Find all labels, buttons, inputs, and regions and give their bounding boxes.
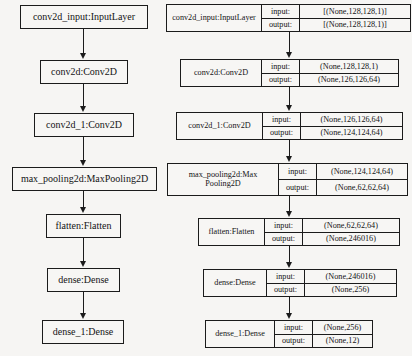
shaped-node-input-row: input: [(None,128,128,1)] xyxy=(262,5,410,19)
input-label: input: xyxy=(275,321,313,334)
output-shape-value: (None,124,124,64) xyxy=(301,127,402,140)
shaped-node-name: flatten:Flatten xyxy=(199,219,264,245)
input-label: input: xyxy=(263,113,301,126)
input-shape-value: (None,124,124,64) xyxy=(317,164,407,179)
output-label: output: xyxy=(275,335,313,348)
output-shape-value: [(None,128,128,1)] xyxy=(300,19,410,32)
shaped-node-shape-table: input: (None,256) output: (None,12) xyxy=(274,321,372,347)
input-shape-value: (None,62,62,64) xyxy=(303,219,399,232)
shaped-node-label: conv2d:Conv2D xyxy=(194,69,248,78)
shaped-edge-dense-to-dense-1 xyxy=(289,297,290,314)
shaped-node-conv2d: conv2d:Conv2D input: (None,128,128,1) ou… xyxy=(180,59,399,87)
shaped-node-label: dense_1:Dense xyxy=(215,330,265,339)
shaped-node-label: conv2d_1:Conv2D xyxy=(188,122,250,131)
shaped-node-shape-table: input: (None,128,128,1) output: (None,12… xyxy=(261,60,398,86)
output-label: output: xyxy=(265,233,303,246)
output-label: output: xyxy=(263,127,301,140)
shaped-edge-conv2d-1-to-max-pooling2d xyxy=(289,140,290,157)
shaped-edge-conv2d-input-to-conv2d xyxy=(289,32,290,53)
input-label: input: xyxy=(265,219,303,232)
shaped-node-input-row: input: (None,124,124,64) xyxy=(279,164,407,180)
output-shape-value: (None,256) xyxy=(305,284,396,297)
input-shape-value: (None,126,126,64) xyxy=(301,113,402,126)
output-label: output: xyxy=(262,74,300,87)
shaped-edge-arrowhead xyxy=(286,262,292,268)
output-label: output: xyxy=(279,180,317,195)
shaped-node-dense: dense:Dense input: (None,246016) output:… xyxy=(203,269,397,297)
shaped-edge-max-pooling2d-to-flatten xyxy=(289,196,290,212)
shaped-node-name: dense:Dense xyxy=(204,270,266,296)
output-shape-value: (None,246016) xyxy=(303,233,399,246)
shaped-node-name: conv2d_1:Conv2D xyxy=(177,113,262,139)
output-label: output: xyxy=(262,19,300,32)
shaped-node-max-pooling2d: max_pooling2d:Max Pooling2D input: (None… xyxy=(167,163,408,196)
shaped-node-output-row: output: (None,256) xyxy=(267,284,396,297)
output-shape-value: (None,126,126,64) xyxy=(300,74,398,87)
shaped-node-output-row: output: (None,124,124,64) xyxy=(263,127,402,140)
shaped-edge-arrowhead xyxy=(286,156,292,162)
shaped-edge-conv2d-to-conv2d-1 xyxy=(289,87,290,106)
input-label: input: xyxy=(267,270,305,283)
shaped-edge-arrowhead xyxy=(286,105,292,111)
output-shape-value: (None,12) xyxy=(313,335,372,348)
shaped-node-shape-table: input: (None,126,126,64) output: (None,1… xyxy=(262,113,402,139)
shaped-node-name: conv2d:Conv2D xyxy=(181,60,261,86)
shaped-node-shape-table: input: (None,124,124,64) output: (None,6… xyxy=(278,164,407,195)
input-shape-value: (None,246016) xyxy=(305,270,396,283)
shaped-node-output-row: output: (None,12) xyxy=(275,335,372,348)
shaped-edge-flatten-to-dense xyxy=(289,246,290,263)
layer-graph-with-shapes: conv2d_input:InputLayer input: [(None,12… xyxy=(0,0,412,356)
shaped-node-input-row: input: (None,126,126,64) xyxy=(263,113,402,127)
shaped-node-conv2d-input: conv2d_input:InputLayer input: [(None,12… xyxy=(166,4,411,32)
input-shape-value: (None,256) xyxy=(313,321,372,334)
shaped-node-label: flatten:Flatten xyxy=(209,228,255,237)
shaped-node-input-row: input: (None,246016) xyxy=(267,270,396,284)
shaped-node-shape-table: input: (None,246016) output: (None,256) xyxy=(266,270,396,296)
input-label: input: xyxy=(279,164,317,179)
shaped-node-output-row: output: (None,246016) xyxy=(265,233,399,246)
shaped-node-output-row: output: (None,126,126,64) xyxy=(262,74,398,87)
shaped-node-name: dense_1:Dense xyxy=(206,321,274,347)
input-label: input: xyxy=(262,60,300,73)
shaped-node-input-row: input: (None,128,128,1) xyxy=(262,60,398,74)
shaped-edge-arrowhead xyxy=(286,313,292,319)
shaped-edge-arrowhead xyxy=(286,52,292,58)
shaped-node-flatten: flatten:Flatten input: (None,62,62,64) o… xyxy=(198,218,400,246)
shaped-node-conv2d-1: conv2d_1:Conv2D input: (None,126,126,64)… xyxy=(176,112,403,140)
output-label: output: xyxy=(267,284,305,297)
shaped-node-label-line2: Pooling2D xyxy=(205,180,241,189)
input-label: input: xyxy=(262,5,300,18)
shaped-node-label: dense:Dense xyxy=(214,279,255,288)
output-shape-value: (None,62,62,64) xyxy=(317,180,407,195)
shaped-node-input-row: input: (None,256) xyxy=(275,321,372,335)
shaped-node-name: max_pooling2d:Max Pooling2D xyxy=(168,164,278,195)
shaped-node-output-row: output: (None,62,62,64) xyxy=(279,180,407,195)
input-shape-value: [(None,128,128,1)] xyxy=(300,5,410,18)
shaped-node-shape-table: input: (None,62,62,64) output: (None,246… xyxy=(264,219,399,245)
shaped-node-shape-table: input: [(None,128,128,1)] output: [(None… xyxy=(261,5,410,31)
shaped-node-output-row: output: [(None,128,128,1)] xyxy=(262,19,410,32)
shaped-node-name: conv2d_input:InputLayer xyxy=(167,5,261,31)
shaped-node-label: conv2d_input:InputLayer xyxy=(172,14,256,23)
input-shape-value: (None,128,128,1) xyxy=(300,60,398,73)
shaped-node-dense-1: dense_1:Dense input: (None,256) output: … xyxy=(205,320,373,348)
shaped-edge-arrowhead xyxy=(286,211,292,217)
shaped-node-input-row: input: (None,62,62,64) xyxy=(265,219,399,233)
